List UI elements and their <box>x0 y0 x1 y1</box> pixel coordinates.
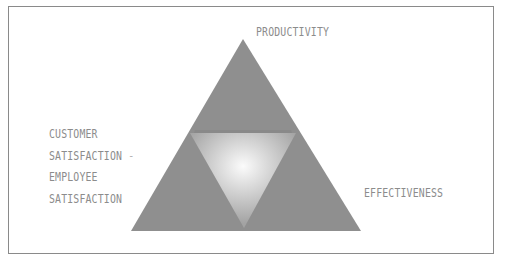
label-satisfaction-1-text: SATISFACTION <box>49 149 122 163</box>
label-satisfaction-1: SATISFACTION - <box>49 146 134 168</box>
top-segment-band <box>194 130 292 133</box>
label-productivity: PRODUCTIVITY <box>256 22 329 44</box>
label-effectiveness: EFFECTIVENESS <box>364 183 443 205</box>
label-satisfaction-2: SATISFACTION <box>49 189 134 211</box>
label-satisfaction: CUSTOMER SATISFACTION - EMPLOYEE SATISFA… <box>49 124 134 210</box>
label-separator: - <box>128 149 134 163</box>
label-employee: EMPLOYEE <box>49 167 134 189</box>
label-customer: CUSTOMER <box>49 124 134 146</box>
